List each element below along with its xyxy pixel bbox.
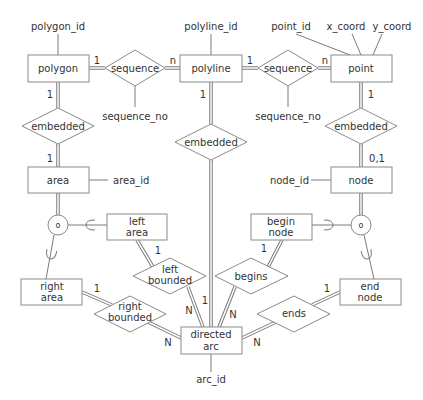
- svg-text:1: 1: [202, 295, 208, 306]
- entity-directed-arc[interactable]: directed arc: [181, 327, 242, 354]
- relationship-begins[interactable]: begins: [215, 258, 288, 294]
- entity-left-area[interactable]: left area: [107, 214, 167, 240]
- svg-text:n: n: [322, 55, 328, 66]
- subset-icon-end-node: [361, 249, 373, 260]
- svg-text:left: left: [162, 264, 178, 275]
- attribute-x-coord: x_coord: [327, 21, 366, 33]
- svg-text:node: node: [269, 227, 294, 238]
- svg-text:embedded: embedded: [334, 121, 388, 132]
- svg-text:1: 1: [324, 283, 330, 294]
- svg-text:sequence: sequence: [111, 63, 159, 74]
- svg-text:right: right: [40, 281, 64, 292]
- svg-text:1: 1: [200, 89, 206, 100]
- svg-text:o: o: [359, 221, 364, 230]
- entity-node[interactable]: node: [331, 167, 392, 193]
- svg-text:area: area: [47, 175, 69, 186]
- svg-text:1: 1: [155, 245, 161, 256]
- attribute-area-id: area_id: [113, 175, 149, 187]
- attribute-point-id: point_id: [271, 21, 311, 33]
- subset-symbols: [45, 220, 372, 260]
- attribute-node-id: node_id: [270, 175, 309, 187]
- svg-text:area: area: [126, 227, 148, 238]
- entity-polyline[interactable]: polyline: [180, 55, 242, 82]
- svg-text:embedded: embedded: [184, 137, 238, 148]
- svg-text:o: o: [56, 221, 61, 230]
- attribute-polygon-id: polygon_id: [31, 21, 85, 33]
- attribute-sequence-no-left: sequence_no: [102, 111, 168, 123]
- svg-text:begins: begins: [234, 271, 267, 282]
- svg-text:directed: directed: [190, 329, 231, 340]
- svg-text:1: 1: [47, 153, 53, 164]
- attribute-y-coord: y_coord: [373, 21, 412, 33]
- svg-text:N: N: [229, 309, 236, 320]
- svg-text:N: N: [164, 337, 171, 348]
- entity-right-area[interactable]: right area: [21, 279, 82, 305]
- svg-text:bounded: bounded: [108, 312, 152, 323]
- double-lines: [58, 68, 361, 338]
- svg-text:N: N: [185, 305, 192, 316]
- svg-text:bounded: bounded: [148, 275, 192, 286]
- svg-text:1: 1: [368, 89, 374, 100]
- attribute-polyline-id: polyline_id: [184, 21, 237, 33]
- entity-end-node[interactable]: end node: [340, 279, 401, 305]
- specialization-circle-node: o: [351, 215, 371, 235]
- svg-text:sequence: sequence: [264, 63, 312, 74]
- svg-text:arc: arc: [203, 341, 219, 352]
- relationship-sequence-right[interactable]: sequence: [258, 50, 318, 86]
- svg-text:end: end: [361, 281, 380, 292]
- specialization-circle-area: o: [48, 215, 68, 235]
- relationship-embedded-left[interactable]: embedded: [22, 108, 94, 144]
- attribute-sequence-no-right: sequence_no: [255, 111, 321, 123]
- svg-text:area: area: [41, 292, 63, 303]
- svg-text:1: 1: [247, 55, 253, 66]
- relationship-sequence-left[interactable]: sequence: [105, 50, 165, 86]
- svg-text:polyline: polyline: [191, 63, 230, 74]
- er-diagram: polygon polyline point area node left ar…: [0, 0, 423, 400]
- svg-text:n: n: [170, 55, 176, 66]
- svg-text:point: point: [348, 63, 374, 74]
- svg-text:ends: ends: [282, 308, 306, 319]
- relationship-left-bounded[interactable]: left bounded: [133, 258, 206, 294]
- svg-text:right: right: [118, 301, 142, 312]
- svg-text:polygon: polygon: [38, 63, 78, 74]
- svg-text:left: left: [129, 216, 145, 227]
- entity-polygon[interactable]: polygon: [28, 55, 89, 82]
- svg-text:1: 1: [94, 283, 100, 294]
- svg-text:N: N: [253, 337, 260, 348]
- attribute-arc-id: arc_id: [196, 374, 226, 386]
- svg-text:1: 1: [94, 55, 100, 66]
- relationship-embedded-right[interactable]: embedded: [325, 108, 397, 144]
- entity-begin-node[interactable]: begin node: [251, 214, 312, 240]
- connectors: [46, 34, 382, 372]
- entity-point[interactable]: point: [331, 55, 392, 82]
- relationship-embedded-middle[interactable]: embedded: [175, 124, 247, 160]
- svg-text:node: node: [349, 175, 374, 186]
- svg-text:node: node: [358, 292, 383, 303]
- svg-text:0,1: 0,1: [369, 153, 385, 164]
- cardinalities: 1 n 1 n 1 1 1 1 0,1 1 N 1 1 N 1 N 1 N: [47, 55, 385, 348]
- svg-text:begin: begin: [267, 216, 295, 227]
- svg-text:1: 1: [47, 89, 53, 100]
- svg-text:embedded: embedded: [31, 121, 85, 132]
- entity-area[interactable]: area: [28, 167, 89, 193]
- svg-text:1: 1: [261, 243, 267, 254]
